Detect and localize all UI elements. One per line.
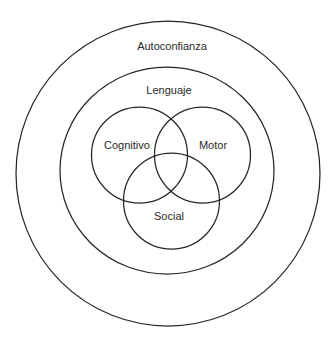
middle-ring-lenguaje [60,67,274,274]
venn-circle-motor [155,107,251,203]
venn-circle-social [124,153,220,249]
label-motor: Motor [199,139,227,151]
venn-circle-cognitivo [92,107,188,203]
label-cognitivo: Cognitivo [104,139,150,151]
label-social: Social [154,210,184,222]
label-lenguaje: Lenguaje [146,84,191,96]
label-autoconfianza: Autoconfianza [137,40,208,52]
development-areas-diagram: Autoconfianza Lenguaje Cognitivo Motor S… [0,0,336,341]
